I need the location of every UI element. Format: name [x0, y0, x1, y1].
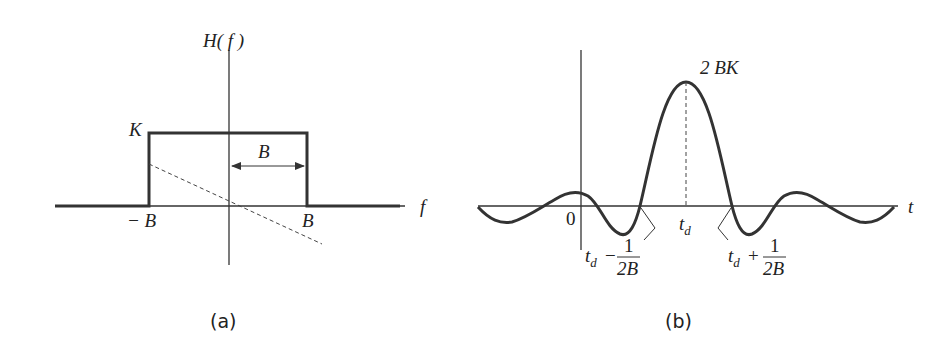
left-zero-label: td − 1 2B	[585, 235, 640, 279]
tick-neg-b: − B	[127, 210, 157, 231]
right-zero-label: td + 1 2B	[728, 235, 786, 279]
origin-label: 0	[566, 208, 576, 229]
caption-a: (a)	[210, 310, 236, 332]
bandwidth-label: B	[258, 141, 270, 162]
magnitude-response	[55, 133, 400, 206]
panel-a: H( f ) f K B − B B (a)	[55, 30, 428, 332]
tick-pos-b: B	[302, 210, 314, 231]
svg-text:2B: 2B	[763, 258, 785, 279]
x-axis-label: f	[420, 196, 428, 217]
svg-text:td: td	[585, 245, 597, 270]
svg-text:1: 1	[770, 235, 780, 256]
left-zero-leader	[641, 208, 655, 240]
svg-text:2B: 2B	[617, 258, 639, 279]
svg-text:1: 1	[624, 235, 634, 256]
panel-b: 2 BK t 0 td td − 1 2B td + 1 2B (b)	[478, 50, 914, 332]
svg-text:td: td	[728, 245, 740, 270]
amplitude-label: K	[128, 119, 143, 140]
caption-b: (b)	[665, 310, 692, 332]
svg-text:+: +	[748, 245, 759, 266]
phase-response	[149, 164, 322, 244]
svg-text:−: −	[605, 245, 616, 266]
bandwidth-arrow	[231, 162, 305, 170]
center-label: td	[679, 213, 691, 238]
peak-label: 2 BK	[700, 57, 740, 78]
y-axis-label: H( f )	[202, 30, 244, 52]
filter-diagram: H( f ) f K B − B B (a) 2 BK t 0 td td	[0, 0, 933, 346]
x-axis-label-t: t	[908, 196, 914, 217]
right-zero-leader	[718, 208, 731, 240]
